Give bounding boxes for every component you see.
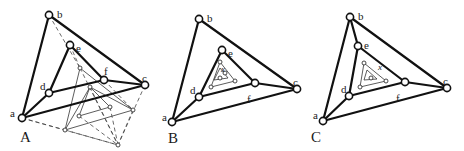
inner-edge: [360, 81, 386, 87]
vertex-f: [401, 78, 408, 85]
graph-figure: abcdefA abcdefxB abcdefxC: [0, 0, 464, 151]
inner-vertex: [108, 105, 112, 109]
vertex-label-e: e: [76, 42, 81, 54]
edge-a-b: [22, 15, 49, 118]
edge-d-e: [349, 46, 358, 96]
vertex-a: [18, 114, 25, 121]
edge-d-e: [49, 45, 70, 93]
inner-vertex: [384, 79, 388, 83]
x-label: x: [220, 64, 225, 74]
vertex-label-c: c: [293, 76, 298, 88]
dashed-edge: [118, 110, 133, 145]
vertex-e: [354, 42, 361, 49]
vertex-label-e: e: [228, 47, 233, 59]
inner-edge: [65, 68, 80, 130]
vertex-label-f: f: [247, 93, 251, 105]
edge-b-c: [49, 15, 145, 85]
vertex-label-d: d: [341, 83, 347, 95]
edge-d-e: [199, 50, 222, 97]
vertex-label-d: d: [190, 84, 196, 96]
panel-c: abcdefxC: [311, 10, 451, 145]
inner-vertex: [131, 108, 135, 112]
vertex-b: [45, 11, 52, 18]
vertex-label-b: b: [207, 12, 213, 24]
inner-vertex: [358, 85, 362, 89]
vertex-label-e: e: [364, 39, 369, 51]
inner-vertex: [88, 85, 92, 89]
vertex-e: [66, 41, 73, 48]
vertex-label-b: b: [57, 8, 63, 20]
vertex-a: [319, 117, 326, 124]
vertex-label-a: a: [313, 109, 318, 121]
vertex-label-c: c: [443, 75, 448, 87]
inner-vertex: [233, 79, 237, 83]
vertex-a: [168, 118, 175, 125]
vertex-f: [251, 79, 258, 86]
inner-edge: [211, 81, 235, 87]
vertex-label-b: b: [358, 10, 364, 22]
vertex-label-a: a: [10, 107, 15, 119]
panel-label-b: B: [168, 130, 178, 146]
inner-edge: [360, 63, 364, 87]
vertex-label-f: f: [104, 65, 108, 77]
panel-b: abcdefxB: [162, 12, 301, 146]
edge-a-b: [323, 17, 350, 121]
inner-vertex: [369, 76, 373, 80]
x-label: x: [377, 62, 382, 72]
vertex-d: [195, 93, 202, 100]
inner-vertex: [362, 61, 366, 65]
vertex-b: [346, 13, 353, 20]
inner-vertex: [218, 76, 222, 80]
edge-a-b: [172, 19, 199, 122]
vertex-e: [218, 46, 225, 53]
inner-edge: [364, 70, 367, 80]
inner-vertex: [63, 128, 67, 132]
vertex-b: [195, 15, 202, 22]
inner-vertex: [116, 143, 120, 147]
inner-vertex: [77, 114, 81, 118]
vertex-label-c: c: [142, 72, 147, 84]
panel-label-c: C: [311, 129, 321, 145]
panel-a: abcdefA: [10, 8, 149, 147]
vertex-d: [45, 89, 52, 96]
vertex-f: [100, 76, 107, 83]
inner-edge: [79, 107, 110, 116]
dashed-edge: [110, 107, 118, 145]
panel-label-a: A: [20, 129, 31, 145]
inner-vertex: [78, 66, 82, 70]
vertex-label-d: d: [40, 80, 46, 92]
vertex-label-a: a: [162, 111, 167, 123]
inner-vertex: [209, 85, 213, 89]
vertex-label-f: f: [396, 92, 400, 104]
